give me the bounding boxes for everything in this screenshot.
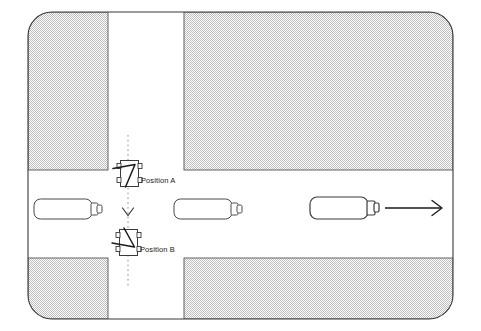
block-top-right (184, 12, 453, 170)
block-bottom-left (28, 258, 108, 319)
label-position-b: Position B (140, 245, 175, 254)
block-bottom-right (184, 258, 453, 319)
chevron-down-icon (123, 208, 134, 216)
block-top-left (28, 12, 108, 170)
label-position-a: Position A (141, 176, 175, 185)
intersection-diagram (0, 0, 481, 331)
direction-arrow-east (385, 201, 442, 216)
vehicle-right (310, 197, 379, 219)
vehicle-left (34, 199, 102, 219)
dotted-trajectory (123, 135, 134, 288)
block-group (28, 12, 453, 319)
marker-position-a (113, 161, 142, 188)
vehicle-middle (174, 199, 242, 219)
marker-position-b (112, 228, 141, 256)
diagram-canvas: Position A Position B (0, 0, 481, 331)
